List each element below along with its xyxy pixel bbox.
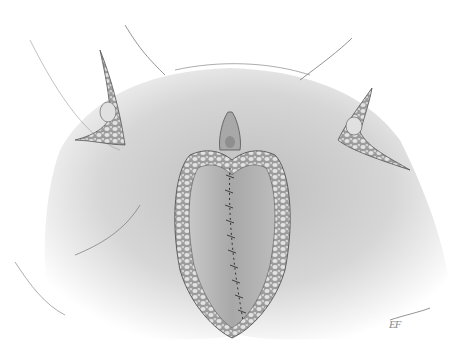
illustration-canvas: EF [0, 0, 463, 356]
artist-signature: EF [389, 318, 400, 330]
anatomical-illustration [0, 0, 463, 356]
contour-line [300, 38, 352, 80]
right-node [346, 117, 362, 135]
contour-line [125, 25, 165, 75]
left-node [100, 102, 116, 122]
